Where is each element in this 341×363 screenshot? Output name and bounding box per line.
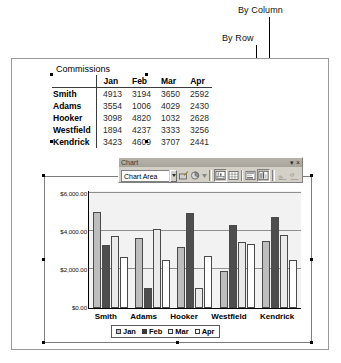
cell-westfield-jan[interactable]: 1894 <box>96 124 125 136</box>
angle-text-clockwise-button[interactable]: a <box>277 169 288 182</box>
chart-plot-area[interactable] <box>88 191 301 309</box>
x-axis-tick-label: Hooker <box>170 312 198 321</box>
cell-kendrick-apr[interactable]: 2441 <box>183 136 212 148</box>
cell-hooker-mar[interactable]: 1032 <box>154 112 183 124</box>
cell-smith-feb[interactable]: 3194 <box>125 88 154 101</box>
chart-toolbar-title: Chart <box>121 158 138 167</box>
toolbar-options-chevron-down-icon[interactable]: ▾ <box>290 158 294 167</box>
chart-type-dropdown-arrow-icon[interactable] <box>202 169 207 182</box>
legend-label-jan: Jan <box>123 327 136 336</box>
table-selection-handle[interactable] <box>50 73 53 76</box>
y-axis-tick-label: $4,000.00 <box>60 228 87 235</box>
chart-selection-handle[interactable] <box>176 341 179 344</box>
chart-toolbar-titlebar[interactable]: Chart ▾ × <box>119 158 302 167</box>
cell-hooker-jan[interactable]: 3098 <box>96 112 125 124</box>
column-header-mar[interactable]: Mar <box>154 75 183 88</box>
chart-selection-handle[interactable] <box>42 341 45 344</box>
row-header-westfield[interactable]: Westfield <box>52 124 96 136</box>
legend-toggle-button[interactable] <box>214 169 227 182</box>
cell-smith-jan[interactable]: 4913 <box>96 88 125 101</box>
table-row[interactable]: Smith 4913 3194 3650 2592 <box>52 88 212 101</box>
legend-item-feb[interactable]: Feb <box>142 327 162 336</box>
chart-bar-kendrick-apr[interactable] <box>289 260 297 308</box>
chart-legend[interactable]: Jan Feb Mar Apr <box>111 325 220 338</box>
table-row[interactable]: Westfield 1894 4237 3333 3256 <box>52 124 212 136</box>
by-column-button[interactable] <box>257 169 270 182</box>
table-row[interactable]: Kendrick 3423 4609 3707 2441 <box>52 136 212 148</box>
chart-bar-smith-jan[interactable] <box>93 212 101 308</box>
cell-hooker-feb[interactable]: 4820 <box>125 112 154 124</box>
chart-bar-hooker-jan[interactable] <box>177 247 185 308</box>
legend-item-jan[interactable]: Jan <box>116 327 136 336</box>
data-table-button[interactable] <box>228 169 239 182</box>
cell-adams-mar[interactable]: 4029 <box>154 100 183 112</box>
cell-kendrick-jan[interactable]: 3423 <box>96 136 125 148</box>
row-header-hooker[interactable]: Hooker <box>52 112 96 124</box>
callout-label-by-column: By Column <box>238 5 283 15</box>
chart-bar-adams-mar[interactable] <box>153 229 161 308</box>
legend-item-apr[interactable]: Apr <box>195 327 215 336</box>
column-header-feb[interactable]: Feb <box>125 75 154 88</box>
chart-bar-adams-apr[interactable] <box>162 260 170 308</box>
cell-westfield-feb[interactable]: 4237 <box>125 124 154 136</box>
chart-bar-adams-feb[interactable] <box>144 288 152 308</box>
chart-selection-handle[interactable] <box>310 341 313 344</box>
table-selection-handle[interactable] <box>145 73 148 76</box>
legend-item-mar[interactable]: Mar <box>168 327 188 336</box>
chart-bar-smith-apr[interactable] <box>120 257 128 308</box>
chart-bar-westfield-feb[interactable] <box>229 225 237 308</box>
chart-selection-handle[interactable] <box>310 174 313 177</box>
column-header-apr[interactable]: Apr <box>183 75 212 88</box>
chart-bar-kendrick-mar[interactable] <box>280 235 288 308</box>
cell-adams-apr[interactable]: 2430 <box>183 100 212 112</box>
format-chart-area-button[interactable] <box>178 169 189 182</box>
legend-label-feb: Feb <box>149 327 162 336</box>
table-selection-handle[interactable] <box>50 140 53 143</box>
chart-bar-group-hooker <box>177 191 212 308</box>
x-axis-tick-label: Westfield <box>211 312 246 321</box>
table-row[interactable]: Hooker 3098 4820 1032 2628 <box>52 112 212 124</box>
cell-kendrick-feb[interactable]: 4609 <box>125 136 154 148</box>
chart-toolbar[interactable]: Chart ▾ × Chart Area <box>118 157 303 183</box>
chart-bar-kendrick-jan[interactable] <box>262 241 270 308</box>
angle-text-counterclockwise-button[interactable]: a <box>289 169 300 182</box>
chart-bar-adams-jan[interactable] <box>135 238 143 308</box>
chart-bars <box>89 191 301 308</box>
chart-y-axis: $6,000.00 $4,000.00 $2,000.00 $0.00 <box>47 191 87 309</box>
chart-selection-handle[interactable] <box>310 258 313 261</box>
chart-object[interactable]: $6,000.00 $4,000.00 $2,000.00 $0.00 <box>44 176 312 343</box>
chart-bar-kendrick-feb[interactable] <box>271 217 279 308</box>
row-header-adams[interactable]: Adams <box>52 100 96 112</box>
by-row-button[interactable] <box>245 169 256 182</box>
cell-hooker-apr[interactable]: 2628 <box>183 112 212 124</box>
chart-bar-hooker-feb[interactable] <box>186 213 194 308</box>
commissions-table[interactable]: Jan Feb Mar Apr Smith 4913 3194 3650 259… <box>52 75 212 148</box>
table-row[interactable]: Adams 3554 1006 4029 2430 <box>52 100 212 112</box>
chart-selection-handle[interactable] <box>42 174 45 177</box>
row-header-smith[interactable]: Smith <box>52 88 96 101</box>
chart-bar-westfield-apr[interactable] <box>247 244 255 308</box>
chart-bar-hooker-apr[interactable] <box>204 256 212 308</box>
chart-bar-westfield-jan[interactable] <box>220 271 228 308</box>
cell-adams-feb[interactable]: 1006 <box>125 100 154 112</box>
cell-smith-apr[interactable]: 2592 <box>183 88 212 101</box>
chart-selection-handle[interactable] <box>42 258 45 261</box>
chart-bar-hooker-mar[interactable] <box>195 288 203 308</box>
column-header-jan[interactable]: Jan <box>96 75 125 88</box>
row-header-kendrick[interactable]: Kendrick <box>52 136 96 148</box>
chart-bar-smith-feb[interactable] <box>102 245 110 308</box>
chart-objects-dropdown-arrow-icon[interactable] <box>170 170 177 182</box>
cell-kendrick-mar[interactable]: 3707 <box>154 136 183 148</box>
chart-objects-combobox[interactable]: Chart Area <box>121 170 169 182</box>
chart-bar-group-smith <box>93 191 128 308</box>
chart-type-button[interactable] <box>190 169 201 182</box>
cell-westfield-mar[interactable]: 3333 <box>154 124 183 136</box>
cell-adams-jan[interactable]: 3554 <box>96 100 125 112</box>
chart-bar-westfield-mar[interactable] <box>238 242 246 308</box>
cell-smith-mar[interactable]: 3650 <box>154 88 183 101</box>
toolbar-close-icon[interactable]: × <box>296 158 300 167</box>
table-selection-handle[interactable] <box>145 140 148 143</box>
cell-westfield-apr[interactable]: 3256 <box>183 124 212 136</box>
chart-bar-smith-mar[interactable] <box>111 236 119 308</box>
chart-bar-group-kendrick <box>262 191 297 308</box>
